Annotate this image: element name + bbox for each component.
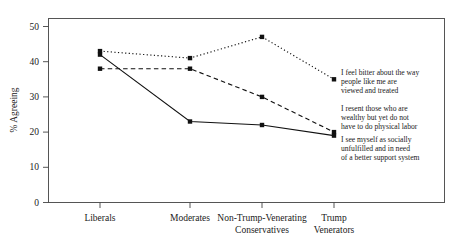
x-label-nontrump-line2: Conservatives bbox=[235, 225, 289, 235]
annotation-unfulfilled: I see myself as socially unfulfilled and… bbox=[341, 135, 420, 162]
annotation-resent: I resent those who are wealthy but yet d… bbox=[341, 104, 418, 131]
y-axis-title: % Agreeing bbox=[9, 87, 19, 132]
annotation-unfulfilled-line-2: unfulfilled and in need bbox=[341, 144, 410, 153]
annotation-bitter-line-1: I feel bitter about the way bbox=[341, 68, 419, 77]
annotation-unfulfilled-line-3: of a better support system bbox=[341, 153, 420, 162]
line-chart: 0 10 20 30 40 50 % Agreeing Liberals Mod… bbox=[0, 0, 449, 247]
annotation-unfulfilled-line-1: I see myself as socially bbox=[341, 135, 412, 144]
series-unfulfilled-point-3 bbox=[332, 133, 336, 137]
annotation-bitter-line-2: people like me are bbox=[341, 77, 397, 86]
series-bitter-point-2 bbox=[260, 35, 264, 39]
x-label-moderates: Moderates bbox=[170, 213, 210, 223]
y-tick-label-20: 20 bbox=[30, 127, 40, 137]
annotation-resent-line-2: wealthy but yet do not bbox=[341, 113, 410, 122]
y-tick-label-30: 30 bbox=[30, 92, 40, 102]
series-unfulfilled-point-0 bbox=[98, 52, 102, 56]
series-unfulfilled-point-2 bbox=[260, 123, 264, 127]
annotation-resent-line-1: I resent those who are bbox=[341, 104, 408, 113]
y-tick-label-0: 0 bbox=[34, 198, 39, 208]
y-tick-label-40: 40 bbox=[30, 57, 40, 67]
series-resent-point-2 bbox=[260, 95, 264, 99]
series-unfulfilled-point-1 bbox=[188, 119, 192, 123]
annotation-bitter-line-3: viewed and treated bbox=[341, 86, 399, 95]
x-label-trump-line1: Trump bbox=[321, 213, 347, 223]
x-label-liberals: Liberals bbox=[84, 213, 115, 223]
y-tick-label-50: 50 bbox=[30, 22, 40, 32]
x-label-trump-line2: Venerators bbox=[314, 225, 355, 235]
y-tick-label-10: 10 bbox=[30, 162, 40, 172]
series-bitter-point-1 bbox=[188, 56, 192, 60]
annotation-resent-line-3: have to do physical labor bbox=[341, 122, 418, 131]
series-resent-point-1 bbox=[188, 67, 192, 71]
series-bitter-point-3 bbox=[332, 77, 336, 81]
x-label-nontrump-line1: Non-Trump-Venerating bbox=[217, 213, 307, 223]
series-resent-point-0 bbox=[98, 67, 102, 71]
chart-svg: 0 10 20 30 40 50 % Agreeing Liberals Mod… bbox=[0, 0, 449, 247]
